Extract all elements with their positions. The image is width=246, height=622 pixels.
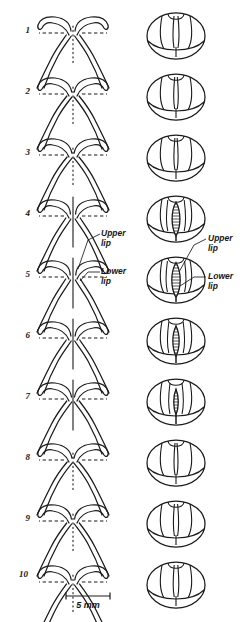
lower-lip-profile-inner <box>44 36 71 88</box>
fold-left-outer <box>160 443 164 476</box>
upper-lip-profile <box>38 78 72 96</box>
fold-left-outer <box>160 199 164 232</box>
fold-left-outer <box>160 565 164 598</box>
lower-lip-profile-inner <box>44 463 72 515</box>
row-label-6: 6 <box>8 331 30 340</box>
upper-lip-profile <box>74 78 108 96</box>
fold-left-inner <box>169 383 171 414</box>
lower-lip-profile-inner <box>75 280 102 332</box>
row-label-8: 8 <box>8 453 30 462</box>
lower-lip-profile-inner <box>44 158 72 210</box>
upper-lip-profile <box>75 505 109 523</box>
fold-left-inner <box>174 138 175 170</box>
fold-right-inner <box>178 16 179 48</box>
fold-right-outer <box>188 260 192 293</box>
lower-lip-profile-inner <box>74 463 102 515</box>
lower-lip-profile-inner <box>44 341 71 393</box>
upper-arch <box>168 75 184 80</box>
lower-lip-profile-inner <box>44 280 71 332</box>
lower-lip-profile-inner <box>75 219 102 271</box>
upper-arch <box>168 502 184 507</box>
lip-aperture-figure: 1 2 3 4 5 6 7 8 9 10 Upper lip Lower lip… <box>0 0 246 622</box>
lower-lip-leader-right <box>180 277 206 286</box>
row-label-3: 3 <box>8 148 30 157</box>
upper-lip-profile <box>38 322 71 340</box>
fold-right-inner <box>178 504 179 536</box>
fold-right-inner <box>184 200 186 231</box>
fold-right-inner <box>177 443 178 475</box>
figure-artwork <box>0 0 246 622</box>
upper-lip-profile <box>38 139 72 157</box>
fold-right-outer <box>188 16 192 49</box>
fold-left-inner <box>167 322 169 353</box>
fold-right-outer <box>188 504 192 537</box>
fold-left-outer <box>160 260 164 293</box>
fold-right-inner <box>185 261 187 292</box>
fold-left-outer <box>160 382 164 415</box>
lower-lip-profile-inner <box>44 97 72 149</box>
fold-right-outer <box>188 199 192 232</box>
upper-arch <box>168 563 184 568</box>
fold-right-inner <box>182 383 184 414</box>
fold-left-outer <box>160 504 164 537</box>
upper-lip-label-right: Upper lip <box>208 234 233 253</box>
upper-lip-profile <box>38 383 72 401</box>
lower-lip-profile-inner <box>44 524 72 576</box>
upper-lip-profile <box>76 200 109 218</box>
fold-left-outer <box>160 77 164 110</box>
lower-lip-profile-inner <box>74 158 102 210</box>
row-label-9: 9 <box>8 514 30 523</box>
upper-arch <box>168 319 184 324</box>
upper-lip-profile <box>38 566 71 584</box>
fold-right-outer <box>188 321 192 354</box>
upper-lip-leader-right <box>179 239 206 272</box>
upper-arch <box>168 14 184 19</box>
row-label-2: 2 <box>8 87 30 96</box>
upper-lip-profile <box>38 200 71 218</box>
upper-lip-profile <box>74 139 108 157</box>
lower-lip-profile-inner <box>74 97 102 149</box>
lower-lip-profile-inner <box>74 402 102 454</box>
fold-left-inner <box>173 565 174 597</box>
upper-lip-profile <box>38 261 70 279</box>
lower-lip-profile-inner <box>75 341 102 393</box>
row-label-10: 10 <box>6 570 28 579</box>
upper-lip-profile <box>74 444 108 462</box>
upper-lip-profile <box>75 566 108 584</box>
row-label-5: 5 <box>8 270 30 279</box>
lower-lip-label-right: Lower lip <box>208 272 233 291</box>
fold-right-inner <box>178 565 179 597</box>
fold-left-inner <box>173 504 174 536</box>
upper-lip-profile <box>75 17 108 35</box>
fold-right-inner <box>177 77 178 109</box>
row-label-1: 1 <box>8 26 30 35</box>
fold-left-outer <box>160 16 164 49</box>
upper-lip-profile <box>75 383 109 401</box>
fold-right-outer <box>188 77 192 110</box>
row-label-7: 7 <box>8 392 30 401</box>
fold-right-inner <box>183 322 185 353</box>
lower-lip-profile-inner <box>44 219 71 271</box>
upper-lip-profile <box>38 505 72 523</box>
upper-lip-profile <box>38 444 72 462</box>
upper-lip-profile <box>75 322 108 340</box>
row-label-4: 4 <box>8 209 30 218</box>
fold-right-outer <box>188 382 192 415</box>
lower-lip-label-left: Lower lip <box>101 267 126 286</box>
fold-right-outer <box>188 565 192 598</box>
fold-left-outer <box>160 321 164 354</box>
fold-right-inner <box>177 138 178 170</box>
upper-arch <box>168 380 184 385</box>
lower-lip-profile-inner <box>75 36 102 88</box>
upper-arch <box>168 441 184 446</box>
fold-right-outer <box>188 138 192 171</box>
fold-right-outer <box>188 443 192 476</box>
lower-lip-profile-inner <box>44 402 72 454</box>
fold-left-inner <box>166 200 168 231</box>
upper-lip-profile <box>38 17 71 35</box>
fold-left-inner <box>166 261 168 292</box>
scale-bar-label: 5 mm <box>58 601 118 610</box>
fold-left-inner <box>174 77 175 109</box>
fold-left-outer <box>160 138 164 171</box>
upper-lip-label-left: Upper lip <box>101 229 126 248</box>
